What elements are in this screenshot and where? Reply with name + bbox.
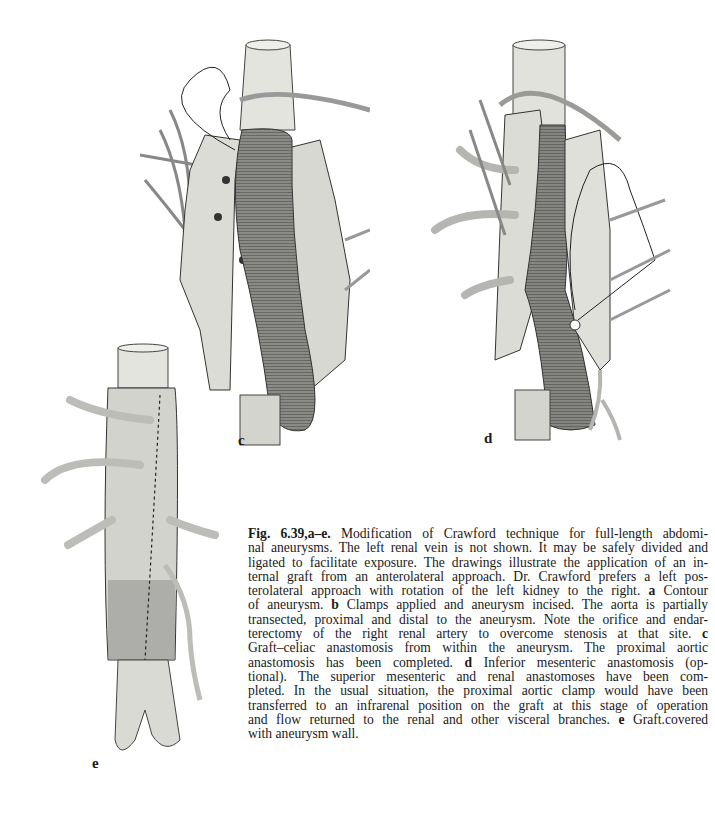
caption-line: transected, proximal and distal to the a… <box>248 613 708 627</box>
caption-line: anastomosis has been completed. d Inferi… <box>248 656 708 670</box>
caption-line: terolateral approach with rotation of th… <box>248 584 708 598</box>
caption-line: pleted. In the usual situation, the prox… <box>248 684 708 698</box>
caption-line: of aneurysm. b Clamps applied and aneury… <box>248 598 708 612</box>
caption-line: with aneurysm wall. <box>248 727 708 741</box>
caption-line: Fig. 6.39,a–e. Modification of Crawford … <box>248 527 708 541</box>
caption-line: and flow returned to the renal and other… <box>248 713 708 727</box>
illustration-panel-e <box>40 340 240 780</box>
caption-line: ligated to facilitate exposure. The draw… <box>248 556 708 570</box>
caption-line: tional). The superior mesenteric and ren… <box>248 670 708 684</box>
panel-label-d: d <box>484 430 492 447</box>
caption-line: terectomy of the right renal artery to o… <box>248 627 708 641</box>
caption-line: ternal graft from an anterolateral appro… <box>248 570 708 584</box>
panel-label-e: e <box>92 755 99 772</box>
illustration-panel-d <box>420 30 680 450</box>
caption-line: transferred to an infrarenal position on… <box>248 699 708 713</box>
caption-line: nal aneurysms. The left renal vein is no… <box>248 541 708 555</box>
caption-line: Graft–celiac anastomosis from within the… <box>248 641 708 655</box>
figure-caption: Fig. 6.39,a–e. Modification of Crawford … <box>248 527 708 741</box>
